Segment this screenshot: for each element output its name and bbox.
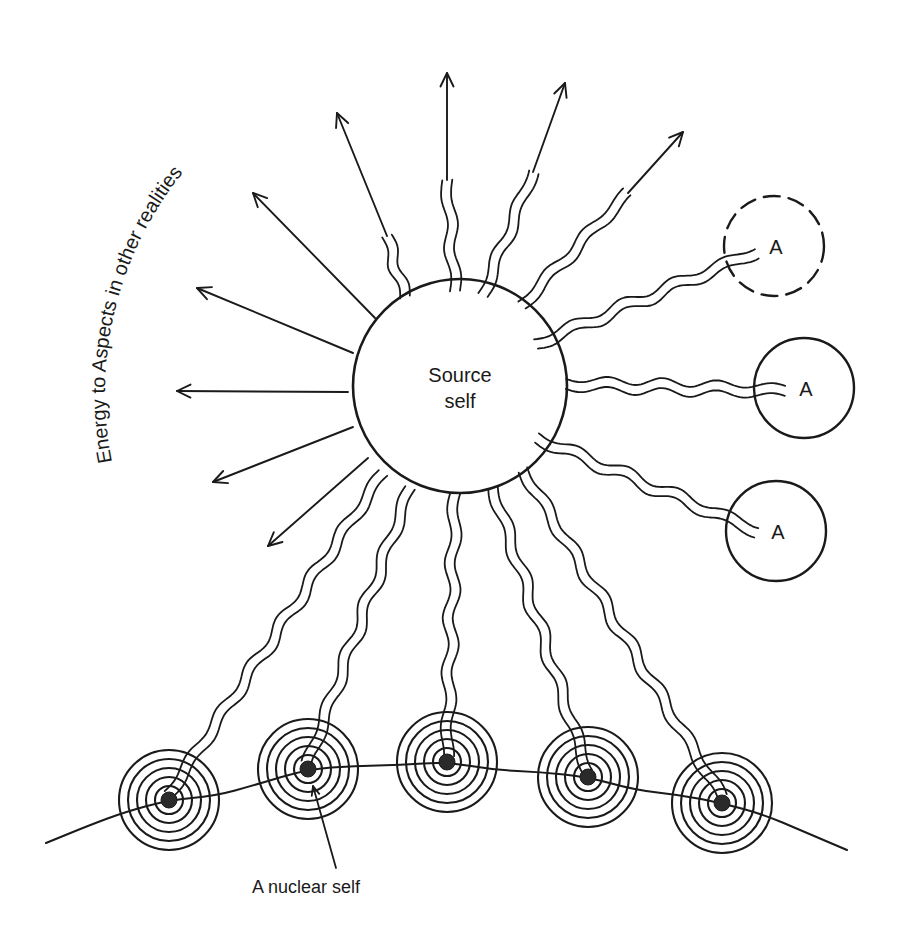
nucleus-dot bbox=[439, 754, 455, 770]
wavy-line bbox=[538, 259, 759, 349]
top-energy-arrows bbox=[336, 73, 683, 308]
arrow-shaft bbox=[533, 83, 565, 172]
energy-arrow bbox=[177, 385, 348, 398]
nucleus-dot bbox=[161, 792, 177, 808]
wavy-line bbox=[518, 188, 623, 301]
nuclear-self-node bbox=[672, 753, 772, 853]
energy-arrow bbox=[197, 287, 353, 353]
energy-arrow bbox=[253, 193, 375, 318]
nucleus-dot bbox=[714, 795, 730, 811]
arrow-shaft bbox=[253, 193, 375, 318]
wavy-line bbox=[539, 433, 758, 528]
diagram-canvas: Source self AAA A nuclear self Energy to… bbox=[0, 0, 903, 951]
nucleus-dot bbox=[580, 769, 596, 785]
arrow-shaft bbox=[268, 458, 368, 546]
wavy-line bbox=[173, 476, 387, 797]
energy-arrow bbox=[213, 427, 353, 483]
arrow-shaft bbox=[337, 113, 387, 236]
energy-arrow-wavy bbox=[336, 113, 410, 298]
energy-arrow-wavy bbox=[518, 132, 683, 308]
wavy-line bbox=[478, 171, 529, 294]
wavy-line bbox=[488, 174, 539, 297]
arrow-shaft bbox=[213, 427, 353, 482]
energy-arrow-wavy bbox=[440, 73, 461, 291]
wavy-line bbox=[441, 494, 452, 756]
source-self-diagram: Source self AAA A nuclear self Energy to… bbox=[0, 0, 903, 951]
aspect-label: A bbox=[769, 236, 783, 258]
wavy-line bbox=[534, 249, 755, 339]
wavy-line bbox=[451, 180, 461, 291]
left-energy-arrows bbox=[177, 193, 375, 546]
wavy-line bbox=[526, 195, 631, 308]
wavy-line bbox=[165, 470, 379, 791]
nuclear-self-links bbox=[165, 467, 727, 799]
arc-caption: Energy to Aspects in other realities bbox=[87, 161, 186, 465]
aspect-label: A bbox=[799, 378, 813, 400]
wavy-line bbox=[535, 443, 754, 538]
source-self-label-line2: self bbox=[444, 390, 476, 412]
wavy-line bbox=[441, 180, 451, 291]
wavy-line bbox=[566, 387, 785, 398]
nuclear-self-node bbox=[397, 712, 497, 812]
energy-arrow-wavy bbox=[478, 83, 566, 297]
arrow-shaft bbox=[628, 132, 683, 193]
source-self-circle bbox=[353, 279, 567, 493]
nucleus-dot bbox=[300, 761, 316, 777]
arrow-shaft bbox=[177, 391, 348, 392]
nuclear-self-label: A nuclear self bbox=[252, 877, 361, 897]
nuclear-self-node bbox=[258, 719, 358, 819]
nuclear-self-node bbox=[119, 750, 219, 850]
wavy-line bbox=[392, 235, 410, 296]
callout-pointer-line bbox=[313, 786, 336, 868]
source-self-node: Source self bbox=[353, 279, 567, 493]
aspect-links bbox=[534, 249, 785, 537]
source-self-label-line1: Source bbox=[428, 364, 491, 386]
energy-arrow bbox=[268, 458, 368, 546]
wavy-line bbox=[566, 377, 785, 388]
aspect-node: A bbox=[754, 338, 854, 438]
aspect-label: A bbox=[771, 521, 785, 543]
arrow-shaft bbox=[197, 288, 353, 353]
arc-caption-text: Energy to Aspects in other realities bbox=[87, 161, 186, 465]
nuclear-self-node bbox=[538, 727, 638, 827]
aspect-node: A bbox=[724, 196, 824, 296]
